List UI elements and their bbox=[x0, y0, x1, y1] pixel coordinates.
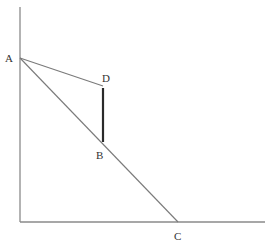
label-point-c: C bbox=[174, 230, 181, 242]
line-a-c bbox=[20, 58, 178, 222]
line-a-d bbox=[20, 58, 103, 86]
label-point-b: B bbox=[96, 149, 103, 161]
label-point-d: D bbox=[102, 72, 110, 84]
diagram-canvas: A D B C bbox=[0, 0, 274, 248]
label-point-a: A bbox=[5, 52, 13, 64]
